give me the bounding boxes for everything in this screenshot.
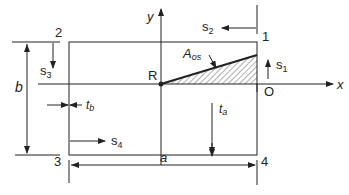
s2-label: s2 [202, 19, 214, 36]
height-b-label: b [15, 79, 23, 95]
corner-2-label: 2 [55, 25, 62, 40]
s1-label: s1 [276, 57, 288, 74]
x-axis-label: x [336, 77, 344, 92]
s3-label: s3 [40, 63, 52, 80]
section-rectangle [69, 42, 257, 155]
ta-label: ta [219, 102, 227, 117]
tb-label: tb [86, 98, 94, 113]
corner-4-label: 4 [261, 154, 268, 169]
corner-1-label: 1 [262, 29, 269, 44]
y-axis-label: y [146, 9, 155, 24]
cross-section-diagram: y x R O 1 2 3 4 s1 s2 s3 s4 Aos b a tb t… [0, 0, 349, 195]
area-leader-arrow [209, 55, 216, 68]
origin-r-dot [159, 82, 164, 87]
point-r-label: R [148, 68, 157, 83]
s4-label: s4 [111, 133, 123, 150]
width-a-label: a [160, 150, 167, 165]
corner-3-label: 3 [54, 154, 61, 169]
point-o-label: O [264, 84, 274, 99]
area-label: Aos [182, 46, 202, 62]
